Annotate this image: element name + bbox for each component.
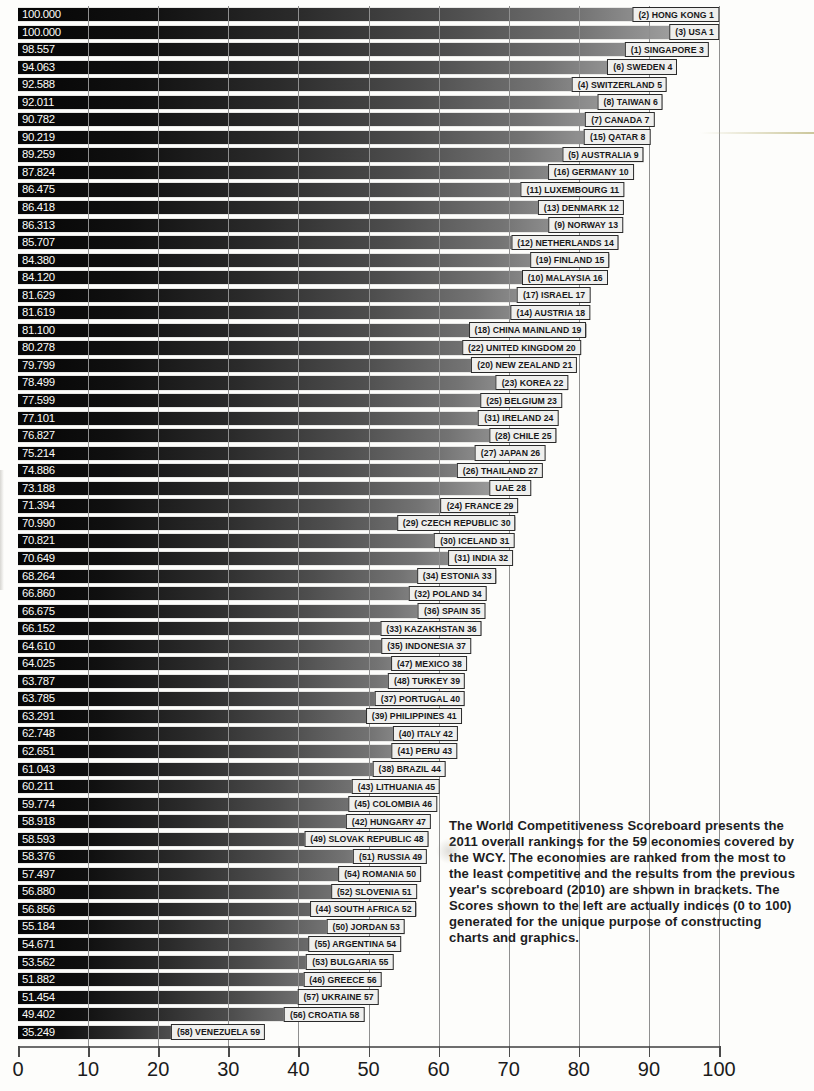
- bar-country-label: (16) GERMANY 10: [548, 164, 634, 180]
- bar-score-value: 75.214: [22, 446, 55, 461]
- bar-score-value: 71.394: [22, 498, 55, 513]
- bar-score-value: 90.782: [22, 112, 55, 127]
- bar-country-label: (24) FRANCE 29: [441, 498, 519, 514]
- bar-score-value: 58.918: [22, 814, 55, 829]
- bar-score-value: 86.418: [22, 200, 55, 215]
- bar-score-value: 78.499: [22, 375, 55, 390]
- bar-score-value: 60.211: [22, 779, 54, 794]
- bar: [18, 305, 590, 320]
- x-axis-tick-50: [369, 1046, 371, 1057]
- chart-row: 66.152(33) KAZAKHSTAN 36: [0, 620, 814, 638]
- bar-score-value: 63.785: [22, 691, 55, 706]
- bar-score-value: 66.860: [22, 586, 55, 601]
- bar-country-label: (55) ARGENTINA 54: [308, 936, 401, 952]
- bar-score-value: 66.675: [22, 604, 55, 619]
- gridline-30: [228, 6, 229, 1046]
- chart-row: 92.588(4) SWITZERLAND 5: [0, 76, 814, 94]
- x-axis-tick-30: [228, 1046, 230, 1057]
- bar-country-label: (47) MEXICO 38: [391, 656, 467, 672]
- bar-country-label: (27) JAPAN 26: [475, 445, 545, 461]
- x-axis-tick-0: [18, 1046, 20, 1057]
- bar-score-value: 79.799: [22, 358, 55, 373]
- bar-country-label: (13) DENMARK 12: [538, 200, 624, 216]
- bar-score-value: 66.152: [22, 621, 55, 636]
- chart-row: 70.821(30) ICELAND 31: [0, 532, 814, 550]
- bar-score-value: 64.025: [22, 656, 55, 671]
- bar: [18, 200, 624, 215]
- bar-country-label: (41) PERU 43: [391, 743, 457, 759]
- bar-score-value: 77.101: [22, 411, 55, 426]
- bar: [18, 130, 650, 145]
- bar-score-value: 61.043: [22, 762, 55, 777]
- chart-row: 63.787(48) TURKEY 39: [0, 673, 814, 691]
- bar-country-label: (25) BELGIUM 23: [480, 393, 562, 409]
- chart-row: 66.860(32) POLAND 34: [0, 585, 814, 603]
- chart-row: 81.619(14) AUSTRIA 18: [0, 304, 814, 322]
- bar-score-value: 51.882: [22, 972, 55, 987]
- bar-score-value: 49.402: [22, 1007, 55, 1022]
- bar-score-value: 70.821: [22, 533, 55, 548]
- bar-score-value: 64.610: [22, 639, 55, 654]
- chart-row: 66.675(36) SPAIN 35: [0, 603, 814, 621]
- chart-row: 86.418(13) DENMARK 12: [0, 199, 814, 217]
- chart-row: 92.011(8) TAIWAN 6: [0, 94, 814, 112]
- chart-row: 49.402(56) CROATIA 58: [0, 1006, 814, 1024]
- bar-country-label: (5) AUSTRALIA 9: [562, 147, 644, 163]
- bar-score-value: 81.100: [22, 323, 55, 338]
- chart-row: 100.000(3) USA 1: [0, 24, 814, 42]
- bar-score-value: 62.651: [22, 744, 55, 759]
- chart-row: 77.101(31) IRELAND 24: [0, 410, 814, 428]
- chart-row: 78.499(23) KOREA 22: [0, 374, 814, 392]
- chart-row: 63.291(39) PHILIPPINES 41: [0, 708, 814, 726]
- x-axis-tick-10: [88, 1046, 90, 1057]
- chart-row: 90.782(7) CANADA 7: [0, 111, 814, 129]
- chart-row: 89.259(5) AUSTRALIA 9: [0, 146, 814, 164]
- bar-score-value: 70.990: [22, 516, 55, 531]
- bar-score-value: 73.188: [22, 481, 55, 496]
- bar-score-value: 92.588: [22, 77, 55, 92]
- chart-row: 61.043(38) BRAZIL 44: [0, 761, 814, 779]
- bar-score-value: 74.886: [22, 463, 55, 478]
- bar: [18, 42, 709, 57]
- bar-country-label: (40) ITALY 42: [393, 726, 458, 742]
- bar-country-label: (37) PORTUGAL 40: [375, 691, 465, 707]
- chart-row: 62.748(40) ITALY 42: [0, 725, 814, 743]
- bar-score-value: 85.707: [22, 235, 55, 250]
- chart-row: 76.827(28) CHILE 25: [0, 427, 814, 445]
- bar-country-label: (35) INDONESIA 37: [381, 638, 471, 654]
- bar-country-label: (54) ROMANIA 50: [338, 866, 421, 882]
- chart-row: 81.629(17) ISRAEL 17: [0, 287, 814, 305]
- x-axis-tick-label: 60: [427, 1058, 449, 1081]
- bar-score-value: 54.671: [22, 937, 55, 952]
- chart-row: 59.774(45) COLOMBIA 46: [0, 796, 814, 814]
- bar-score-value: 100.000: [22, 25, 61, 40]
- bar: [18, 218, 623, 233]
- bar-score-value: 86.475: [22, 182, 55, 197]
- bar: [18, 428, 557, 443]
- bar-score-value: 57.497: [22, 867, 55, 882]
- gridline-20: [158, 6, 159, 1046]
- bar-score-value: 81.619: [22, 305, 55, 320]
- bar-country-label: (36) SPAIN 35: [418, 603, 486, 619]
- bar-country-label: (32) POLAND 34: [408, 586, 486, 602]
- bar-score-value: 100.000: [22, 7, 61, 22]
- chart-row: 75.214(27) JAPAN 26: [0, 445, 814, 463]
- bar-country-label: (9) NORWAY 13: [548, 217, 623, 233]
- bar-country-label: (8) TAIWAN 6: [597, 94, 663, 110]
- bar-score-value: 80.278: [22, 340, 55, 355]
- chart-row: 86.313(9) NORWAY 13: [0, 217, 814, 235]
- x-axis-tick-90: [649, 1046, 651, 1057]
- x-axis-tick-label: 90: [638, 1058, 660, 1081]
- chart-row: 81.100(18) CHINA MAINLAND 19: [0, 322, 814, 340]
- x-axis-tick-label: 20: [147, 1058, 169, 1081]
- bar-score-value: 56.856: [22, 902, 55, 917]
- x-axis-tick-60: [439, 1046, 441, 1057]
- bar-country-label: UAE 28: [489, 480, 531, 496]
- chart-row: 87.824(16) GERMANY 10: [0, 164, 814, 182]
- chart-row: 68.264(34) ESTONIA 33: [0, 568, 814, 586]
- bar: [18, 77, 667, 92]
- x-axis-tick-40: [298, 1046, 300, 1057]
- chart-row: 79.799(20) NEW ZEALAND 21: [0, 357, 814, 375]
- bar-country-label: (12) NETHERLANDS 14: [511, 235, 619, 251]
- bar: [18, 165, 634, 180]
